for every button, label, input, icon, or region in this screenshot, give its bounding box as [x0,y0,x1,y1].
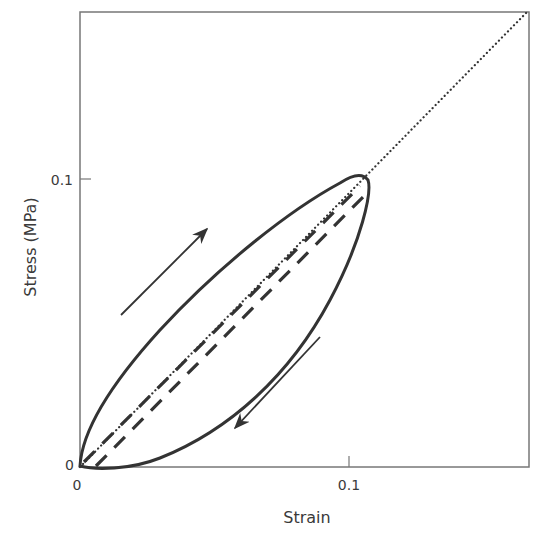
x-axis-title: Strain [283,508,330,527]
y-tick-label-0: 0 [65,457,74,473]
unloading-arrow [235,337,320,428]
upper-dashed-line [84,186,360,462]
y-axis-title: Stress (MPa) [21,197,40,296]
y-tick-label-0-1: 0.1 [51,172,73,188]
x-tick-label-0: 0 [73,477,82,493]
stress-strain-chart: 0.1 0 0 0.1 Strain Stress (MPa) [0,0,553,544]
x-tick-label-0-1: 0.1 [338,477,360,493]
loading-arrow [121,229,207,315]
lower-dashed-line [96,196,364,466]
